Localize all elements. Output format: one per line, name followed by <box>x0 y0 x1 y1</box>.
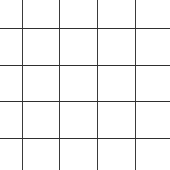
grid-vertical-line <box>59 0 60 170</box>
grid-horizontal-line <box>0 28 170 29</box>
grid-vertical-line <box>97 0 98 170</box>
grid-vertical-line <box>135 0 136 170</box>
grid-horizontal-line <box>0 65 170 66</box>
grid-horizontal-line <box>0 101 170 102</box>
grid-vertical-line <box>22 0 23 170</box>
grid-horizontal-line <box>0 138 170 139</box>
grid <box>0 0 170 170</box>
